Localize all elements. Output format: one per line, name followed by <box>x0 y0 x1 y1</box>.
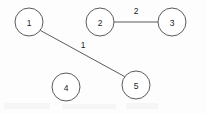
edge-weight-1-5: 1 <box>81 40 86 50</box>
node-4-label: 4 <box>64 83 69 93</box>
graph-svg: 2 1 1 2 3 4 5 <box>0 0 206 114</box>
node-3[interactable]: 3 <box>158 8 186 36</box>
node-5-label: 5 <box>134 81 139 91</box>
node-4[interactable]: 4 <box>52 73 80 101</box>
node-2-label: 2 <box>98 18 103 28</box>
node-group: 1 2 3 4 5 <box>15 8 186 101</box>
edge-1-5[interactable] <box>41 31 125 77</box>
node-3-label: 3 <box>170 18 175 28</box>
node-2[interactable]: 2 <box>86 8 114 36</box>
node-5[interactable]: 5 <box>122 71 150 99</box>
edge-weight-2-3: 2 <box>134 6 139 16</box>
graph-diagram-canvas: 2 1 1 2 3 4 5 <box>0 0 206 114</box>
node-1[interactable]: 1 <box>15 8 43 36</box>
node-1-label: 1 <box>27 18 32 28</box>
